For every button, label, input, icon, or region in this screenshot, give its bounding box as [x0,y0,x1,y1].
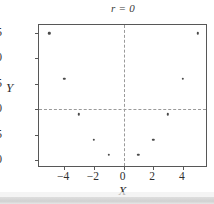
data-point [196,32,198,34]
y-axis-tick-label: 0 [0,153,2,165]
data-point [93,138,95,140]
x-axis-tick-label: 4 [169,170,195,182]
chart-title: r = 0 [38,2,208,14]
gridline-horizontal [39,109,206,110]
data-point [107,154,109,156]
x-axis-tick-label: 0 [110,170,136,182]
y-axis-tick-label: 25 [0,26,2,38]
y-axis-tick [35,33,39,34]
x-axis-tick-label: −2 [80,170,106,182]
y-axis-tick-label: 20 [0,51,2,63]
plot-frame [38,24,207,167]
y-axis-tick [35,58,39,59]
x-axis-tick-label: −4 [50,170,76,182]
y-axis-tick [35,135,39,136]
data-point [167,113,169,115]
gridline-vertical [124,25,125,166]
x-axis-tick-label: 2 [139,170,165,182]
data-point [182,78,184,80]
data-point [152,138,154,140]
y-axis-tick-label: 15 [0,77,2,89]
plot-area [39,25,206,166]
data-point [48,32,50,34]
y-axis-tick [35,160,39,161]
y-axis-tick [35,84,39,85]
scan-artifact-strip [0,197,214,204]
y-axis-label: Y [6,80,13,96]
y-axis-tick-label: 5 [0,128,2,140]
scatter-plot-figure: r = 0 Y X 0510152025−4−2024 [0,0,214,204]
y-axis-tick-label: 10 [0,102,2,114]
y-axis-tick [35,109,39,110]
data-point [63,78,65,80]
data-point [78,113,80,115]
data-point [137,154,139,156]
